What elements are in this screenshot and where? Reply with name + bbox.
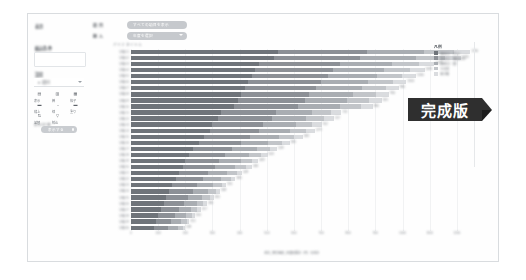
bar-segment[interactable] (274, 56, 361, 60)
bar-segment[interactable] (188, 195, 202, 199)
bar-segment[interactable] (168, 226, 177, 230)
filter-icon[interactable]: ▽ (53, 112, 62, 119)
bar-segment[interactable] (305, 98, 348, 102)
bar-segment[interactable] (204, 135, 250, 139)
bar-segment[interactable] (131, 56, 274, 60)
bar-segment[interactable] (215, 165, 236, 169)
bar-segment[interactable] (298, 104, 339, 108)
bar-segment[interactable] (210, 195, 214, 199)
bar-segment[interactable] (208, 171, 227, 175)
bar-segment[interactable] (312, 110, 331, 114)
stacked-bar[interactable] (131, 135, 303, 139)
stacked-bar[interactable] (131, 207, 201, 211)
line-icon[interactable]: ⎯ (53, 101, 62, 108)
bar-segment[interactable] (197, 183, 213, 187)
bar-segment[interactable] (203, 177, 221, 181)
stacked-bar[interactable] (131, 171, 242, 175)
bar-segment[interactable] (263, 122, 296, 126)
bar-segment[interactable] (232, 147, 257, 151)
bar-segment[interactable] (328, 74, 377, 78)
bar-segment[interactable] (250, 135, 279, 139)
bar-segment[interactable] (131, 86, 245, 90)
bar-segment[interactable] (183, 165, 215, 169)
bar-segment[interactable] (203, 201, 207, 205)
bar-segment[interactable] (221, 177, 230, 181)
bar-segment[interactable] (246, 165, 252, 169)
bar-segment[interactable] (270, 147, 277, 151)
bar-segment[interactable] (376, 92, 388, 96)
bar-segment[interactable] (392, 62, 419, 66)
sort-asc-icon[interactable]: ⇅ (35, 112, 44, 119)
bar-segment[interactable] (199, 141, 241, 145)
bar-segment[interactable] (219, 159, 241, 163)
bar-segment[interactable] (131, 141, 199, 145)
bar-segment[interactable] (185, 159, 219, 163)
bar-segment[interactable] (377, 74, 403, 78)
bar-segment[interactable] (386, 86, 399, 90)
bar-segment[interactable] (333, 68, 384, 72)
bar-segment[interactable] (131, 219, 156, 223)
bar-segment[interactable] (131, 189, 169, 193)
bar-segment[interactable] (131, 177, 176, 181)
bar-segment[interactable] (361, 104, 373, 108)
bar-segment[interactable] (282, 141, 290, 145)
bar-segment[interactable] (222, 183, 227, 187)
bar-segment[interactable] (164, 201, 184, 205)
bar-segment[interactable] (131, 129, 210, 133)
bar-segment[interactable] (131, 68, 255, 72)
bar-segment[interactable] (268, 141, 282, 145)
bar-segment[interactable] (131, 62, 259, 66)
bar-segment[interactable] (221, 110, 277, 114)
bar-segment[interactable] (131, 213, 158, 217)
bar-segment[interactable] (316, 86, 362, 90)
bar-segment[interactable] (131, 98, 238, 102)
bar-segment[interactable] (255, 68, 334, 72)
fill-icon[interactable]: ▬ (71, 101, 80, 108)
bar-segment[interactable] (131, 153, 189, 157)
stacked-bar[interactable] (131, 219, 189, 223)
stacked-bar[interactable] (131, 56, 461, 60)
bar-segment[interactable] (131, 171, 179, 175)
bar-segment[interactable] (131, 116, 218, 120)
filter-condition-box[interactable] (34, 52, 86, 67)
bar-segment[interactable] (340, 104, 361, 108)
bar-segment[interactable] (197, 201, 204, 205)
bar-segment[interactable] (218, 116, 272, 120)
stacked-bar[interactable] (131, 147, 277, 151)
bar-segment[interactable] (131, 207, 161, 211)
bar-row[interactable]: 分類 30199 (91, 225, 484, 231)
stacked-bar[interactable] (131, 116, 334, 120)
bar-segment[interactable] (331, 110, 341, 114)
stacked-bar[interactable] (131, 141, 290, 145)
bar-segment[interactable] (189, 153, 225, 157)
bar-segment[interactable] (245, 86, 316, 90)
bar-segment[interactable] (158, 213, 175, 217)
bar-segment[interactable] (241, 92, 309, 96)
bar-segment[interactable] (369, 98, 381, 102)
bar-segment[interactable] (175, 213, 186, 217)
legend-item[interactable]: 未分類 (434, 71, 492, 76)
bar-segment[interactable] (347, 98, 369, 102)
bar-segment[interactable] (184, 201, 197, 205)
stacked-bar[interactable] (131, 195, 214, 199)
bar-segment[interactable] (210, 129, 259, 133)
stacked-bar[interactable] (131, 68, 425, 72)
stacked-bar[interactable] (131, 226, 185, 230)
bar-segment[interactable] (131, 74, 252, 78)
stacked-bar[interactable] (131, 86, 399, 90)
stacked-bar[interactable] (131, 110, 341, 114)
filter-dropdown-item[interactable]: すべての項目を表示 (127, 21, 187, 29)
bar-segment[interactable] (340, 62, 392, 66)
bar-segment[interactable] (193, 147, 232, 151)
stacked-bar[interactable] (131, 183, 226, 187)
bar-segment[interactable] (131, 165, 183, 169)
bar-segment[interactable] (235, 165, 246, 169)
bar-segment[interactable] (131, 110, 221, 114)
bar-segment[interactable] (193, 189, 208, 193)
bar-segment[interactable] (419, 62, 434, 66)
bar-segment[interactable] (384, 68, 410, 72)
bar-segment[interactable] (131, 50, 278, 54)
bar-segment[interactable] (192, 213, 195, 217)
bar-segment[interactable] (212, 122, 263, 126)
bar-segment[interactable] (154, 226, 168, 230)
